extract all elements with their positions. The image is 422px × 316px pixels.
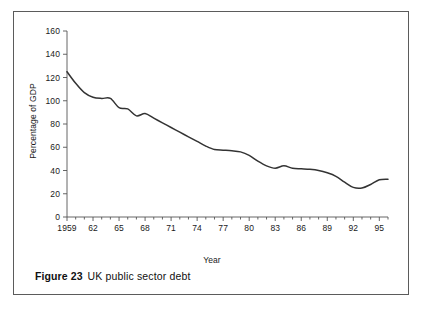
debt-series-line — [67, 72, 388, 189]
y-axis-tick-label: 40 — [27, 166, 60, 176]
y-axis-tick-label: 20 — [27, 189, 60, 199]
y-axis-tick-label: 80 — [27, 119, 60, 129]
caption-title: UK public sector debt — [88, 270, 191, 282]
y-axis-tick-label: 120 — [27, 73, 60, 83]
figure-caption: Figure 23UK public sector debt — [35, 270, 191, 282]
y-axis-tick-label: 140 — [27, 49, 60, 59]
x-axis-title: Year — [14, 255, 410, 265]
chart-plot-area: Percentage of GDP 0204060801001201401601… — [14, 12, 410, 260]
figure-frame: Percentage of GDP 0204060801001201401601… — [13, 11, 409, 295]
y-axis-tick-label: 160 — [27, 26, 60, 36]
x-axis-tick-label: 95 — [363, 223, 395, 233]
y-axis-tick-label: 0 — [27, 212, 60, 222]
caption-figure-number: Figure 23 — [35, 270, 83, 282]
y-axis-tick-label: 60 — [27, 142, 60, 152]
y-axis-tick-label: 100 — [27, 96, 60, 106]
